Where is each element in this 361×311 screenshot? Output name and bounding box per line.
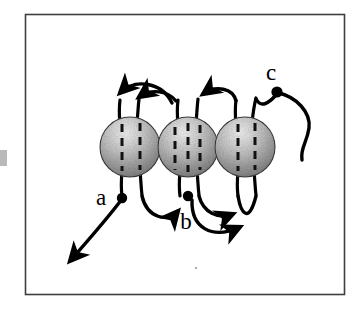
- point-b-dot[interactable]: [183, 191, 193, 201]
- figure-root: a b c: [0, 0, 361, 311]
- label-b: b: [180, 209, 192, 234]
- scan-speck: [195, 267, 197, 269]
- sphere-left: [100, 117, 160, 177]
- sphere-right-body: [215, 117, 275, 177]
- label-c: c: [266, 60, 276, 85]
- sphere-group: [100, 117, 275, 177]
- sphere-middle: [158, 117, 218, 177]
- point-c-dot[interactable]: [271, 86, 282, 97]
- sphere-right: [215, 117, 275, 177]
- sphere-left-body: [100, 117, 160, 177]
- label-a: a: [96, 185, 106, 210]
- point-a-dot[interactable]: [117, 193, 127, 203]
- physics-field-line-diagram: a b c: [0, 0, 361, 311]
